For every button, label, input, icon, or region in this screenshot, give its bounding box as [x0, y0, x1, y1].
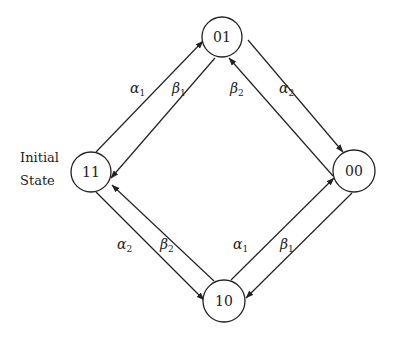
edge-00-to-01: β2 — [229, 58, 333, 176]
initial-state-annotation: Initial State — [20, 151, 59, 187]
edge-11-to-10: α2 — [96, 192, 204, 300]
edge-label: β2 — [229, 80, 244, 98]
arrow-line — [231, 178, 334, 280]
edge-label: β1 — [171, 80, 186, 98]
edge-label: α1 — [233, 236, 248, 254]
state-label: 10 — [215, 293, 233, 309]
arrow-line — [111, 58, 215, 178]
edge-label: α1 — [130, 80, 145, 98]
edge-00-to-10: β1 — [246, 193, 352, 298]
annotation-line-initial: Initial — [20, 151, 59, 164]
edge-label: α2 — [117, 236, 132, 254]
arrow-line — [229, 58, 333, 176]
arrow-line — [96, 41, 203, 152]
state-label: 00 — [345, 163, 363, 179]
arrow-line — [112, 185, 214, 281]
edge-01-to-11: β1 — [111, 58, 215, 178]
state-label: 11 — [82, 164, 100, 180]
state-node-11: 11 — [71, 152, 111, 192]
edge-label: α2 — [279, 80, 294, 98]
edge-10-to-11: β2 — [112, 185, 214, 281]
state-node-10: 10 — [203, 280, 245, 322]
state-nodes: 01110010 — [71, 17, 375, 322]
edge-label: β1 — [279, 236, 294, 254]
state-label: 01 — [213, 29, 231, 45]
edge-11-to-01: α1 — [96, 41, 203, 152]
state-node-00: 00 — [333, 150, 375, 192]
edge-label: β2 — [159, 236, 174, 254]
annotation-line-state: State — [20, 174, 59, 187]
state-node-01: 01 — [202, 17, 242, 57]
state-transition-diagram: α1β1β2α2α2β2α1β1 01110010 — [0, 0, 394, 341]
arrow-line — [246, 193, 352, 298]
transition-edges: α1β1β2α2α2β2α1β1 — [96, 40, 352, 300]
arrow-line — [96, 192, 204, 300]
edge-10-to-00: α1 — [231, 178, 334, 280]
